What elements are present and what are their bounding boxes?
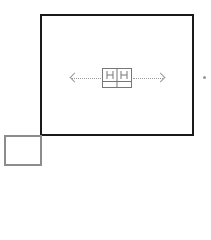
small-frame	[4, 135, 42, 166]
offscreen-indicator-icon	[203, 76, 206, 79]
component-block-icon	[102, 68, 132, 88]
left-connector-line	[71, 78, 101, 79]
